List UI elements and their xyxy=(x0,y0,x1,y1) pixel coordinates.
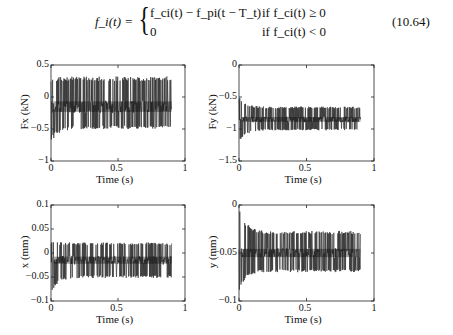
x-axis-label: Time (s) xyxy=(285,313,322,325)
y-axis-label: y (mm) xyxy=(206,227,218,277)
y-tick-label: −0.1 xyxy=(219,294,237,305)
dense-band xyxy=(242,249,361,257)
x-tick-label: 0 xyxy=(236,302,241,313)
x-tick-label: 0.5 xyxy=(299,302,312,313)
y-tick-label: 0 xyxy=(232,198,237,209)
x-tick-label: 1 xyxy=(371,302,376,313)
plot-4 xyxy=(0,0,453,335)
